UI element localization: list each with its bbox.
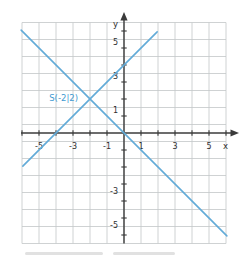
y-axis-label: y	[113, 19, 118, 29]
print-shadow	[113, 252, 175, 255]
figure: -5-3-1135531-3-5xyS(-2|2)	[0, 0, 247, 263]
y-tick-label: 1	[113, 106, 118, 115]
y-tick-label: 5	[113, 38, 118, 47]
x-tick-label: -3	[69, 142, 77, 151]
y-tick-label: -3	[110, 187, 118, 196]
x-axis-label: x	[223, 141, 228, 151]
intersection-label: S(-2|2)	[49, 93, 78, 103]
x-tick-label: 5	[206, 142, 211, 151]
coordinate-system: -5-3-1135531-3-5xyS(-2|2)	[0, 0, 247, 263]
x-tick-label: 3	[172, 142, 177, 151]
print-shadow	[25, 252, 103, 255]
y-tick-label: -5	[110, 221, 118, 230]
x-tick-label: -1	[103, 142, 111, 151]
